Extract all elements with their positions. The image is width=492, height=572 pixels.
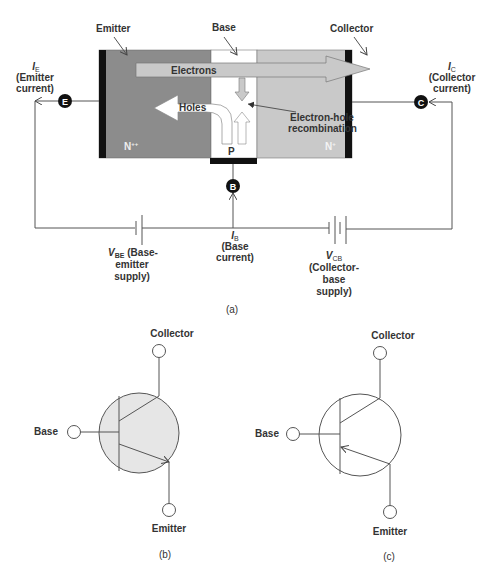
npn-symbol: Collector Base Emitter (b) [34, 328, 194, 560]
npn-collector-label: Collector [150, 328, 193, 339]
emitter-current-line1: (Emitter [16, 72, 54, 83]
emitter-region-label: Emitter [96, 23, 131, 34]
collector-region-label: Collector [330, 23, 373, 34]
base-region-label: Base [212, 22, 236, 33]
npn-emitter-pin [163, 504, 176, 517]
base-current-line1: (Base [221, 241, 249, 252]
npn-collector-pin [153, 345, 166, 358]
recombination-label-2: recombination [288, 123, 357, 134]
vcb-label-line1: (Collector- [309, 262, 359, 273]
base-terminal-label: B [230, 182, 237, 192]
caption-a: (a) [226, 304, 238, 315]
npn-emitter-label: Emitter [152, 523, 187, 534]
vbe-label-line2: emitter [115, 259, 148, 270]
vcb-label-line2: base [323, 274, 346, 285]
caption-c: (c) [383, 551, 395, 562]
vcb-label-line3: supply) [316, 286, 352, 297]
transistor-cross-section: Electrons Holes Electron-hole recombinat… [96, 22, 373, 164]
emitter-current-line2: current) [16, 83, 54, 94]
pnp-emitter-pin [384, 506, 397, 519]
collector-terminal-label: C [418, 98, 425, 108]
pnp-base-pin [287, 428, 300, 441]
emitter-contact [99, 50, 106, 158]
caption-b: (b) [159, 549, 171, 560]
base-contact [210, 158, 257, 164]
holes-label: Holes [179, 102, 207, 113]
pnp-base-label: Base [255, 428, 279, 439]
npn-base-pin [68, 426, 81, 439]
pnp-emitter-label: Emitter [373, 526, 408, 537]
base-doping: P [228, 146, 235, 157]
vbe-label-line1: VBE (Base- [108, 247, 158, 259]
emitter-terminal-label: E [62, 97, 68, 107]
base-current-line2: current) [216, 252, 254, 263]
npn-base-label: Base [34, 426, 58, 437]
bjt-diagram: Electrons Holes Electron-hole recombinat… [0, 0, 492, 572]
collector-pointer [354, 37, 367, 55]
collector-current-line1: (Collector [429, 72, 476, 83]
pnp-collector-label: Collector [371, 330, 414, 341]
vcb-label-symbol: VCB [326, 250, 343, 262]
pnp-symbol: Collector Base Emitter (c) [255, 330, 415, 562]
collector-current-line2: current) [433, 83, 471, 94]
electrons-label: Electrons [171, 65, 217, 76]
recombination-label-1: Electron-hole [290, 112, 354, 123]
vbe-label-line3: supply) [114, 271, 150, 282]
pnp-collector-pin [374, 347, 387, 360]
